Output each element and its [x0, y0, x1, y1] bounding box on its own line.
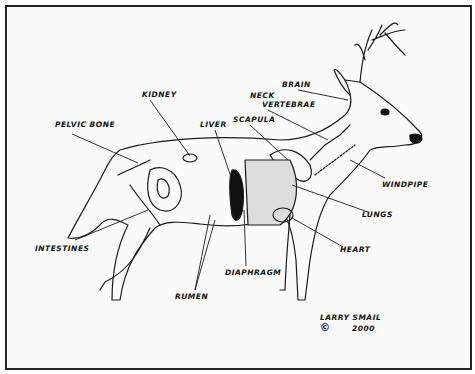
label-pelvic-bone: PELVIC BONE [55, 120, 115, 129]
label-intestines: INTESTINES [35, 244, 89, 253]
label-neck-vertebrae-line2: VERTEBRAE [262, 100, 316, 109]
label-lungs: LUNGS [362, 210, 393, 219]
intestines-shape [148, 168, 182, 211]
kidney-shape [183, 154, 197, 162]
label-windpipe: WINDPIPE [382, 180, 428, 189]
eye [381, 109, 389, 115]
neck-vertebrae-leader [268, 110, 328, 140]
kidney-leader [150, 100, 190, 156]
scapula-leader [250, 125, 288, 160]
liver-shape [230, 170, 244, 220]
label-rumen: RUMEN [175, 292, 208, 301]
ear [334, 69, 350, 95]
intestines-leader [75, 210, 148, 240]
pelvic-bone-leader [72, 134, 138, 163]
signature-year: 2000 [352, 324, 375, 333]
label-diaphragm: DIAPHRAGM [225, 268, 281, 277]
label-liver: LIVER [200, 120, 227, 129]
brain-leader [298, 90, 348, 100]
antlers [355, 23, 405, 82]
diaphragm-leader [244, 210, 246, 266]
hind-leg [100, 228, 150, 290]
label-neck-vertebrae-line1: NECK [250, 91, 275, 100]
signature-artist: LARRY SMAIL [320, 313, 381, 322]
label-heart: HEART [340, 245, 370, 254]
rumen-leader-1 [195, 220, 215, 290]
neck-vertebrae-shape [310, 125, 350, 160]
lungs-leader [292, 185, 368, 212]
rumen-leader-2 [195, 215, 210, 290]
front-leg [280, 215, 290, 290]
nose [410, 134, 422, 143]
label-scapula: SCAPULA [233, 115, 275, 124]
pelvic-bone-shape [118, 160, 160, 225]
label-kidney: KIDNEY [142, 90, 177, 99]
label-brain: BRAIN [282, 80, 311, 89]
deer-body-outline [68, 80, 422, 300]
lungs-shape [245, 160, 297, 225]
copyright-symbol: © [320, 322, 331, 333]
